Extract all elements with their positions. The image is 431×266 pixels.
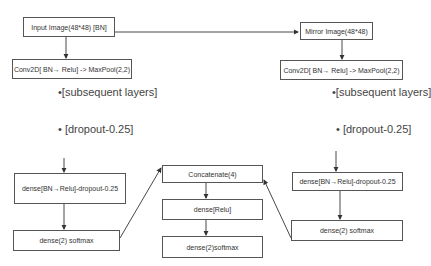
conv2d-left-label: Conv2D[ BN→ Relu] -> MaxPool(2,2) [14,66,130,73]
dense-right-box: dense[BN→Relu]-dropout-0.25 [292,172,403,191]
mirror-image-label: Mirror Image(48*48) [305,28,368,35]
mirror-image-box: Mirror Image(48*48) [300,22,373,40]
dense-relu-label: dense[Relu] [194,206,231,213]
conv2d-right-box: Conv2D[ BN→ Relu] -> MaxPool(2,2) [280,60,403,80]
conv2d-right-label: Conv2D[ BN→ Relu] -> MaxPool(2,2) [283,67,399,74]
concatenate-box: Concatenate(4) [162,165,263,183]
subsequent-layers-right: •[subsequent layers] [332,86,431,98]
dense-left-box: dense[BN→Relu]-dropout-0.25 [14,173,126,204]
dropout-left: • [dropout-0.25] [58,123,133,135]
dropout-right: • [dropout-0.25] [336,123,411,135]
softmax-left-box: dense(2) softmax [13,230,120,251]
softmax-merge-label: dense(2)softmax [186,244,238,251]
softmax-merge-box: dense(2)softmax [162,236,263,258]
conv2d-left-box: Conv2D[ BN→ Relu] -> MaxPool(2,2) [12,59,132,79]
concatenate-label: Concatenate(4) [188,171,236,178]
dense-left-label: dense[BN→Relu]-dropout-0.25 [22,185,118,192]
softmax-right-label: dense(2) softmax [320,227,374,234]
subsequent-layers-left: •[subsequent layers] [58,86,157,98]
softmax-right-box: dense(2) softmax [291,220,403,241]
input-image-box: Input Image(48*48) [BN] [23,17,115,37]
dense-relu-box: dense[Relu] [162,199,263,220]
input-image-label: Input Image(48*48) [BN] [31,24,107,31]
softmax-left-label: dense(2) softmax [39,237,93,244]
dense-right-label: dense[BN→Relu]-dropout-0.25 [299,178,395,185]
